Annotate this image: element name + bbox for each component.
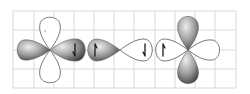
- middle-bond: [88, 39, 153, 61]
- left-atom: [17, 17, 85, 83]
- orbital-diagram-svg: [0, 0, 250, 94]
- right-atom: [156, 17, 220, 84]
- lobe-right-outline: [120, 39, 152, 61]
- orbital-diagram: [0, 0, 250, 94]
- lobe-left-filled-2: [88, 39, 120, 61]
- dot-marker: [44, 30, 46, 32]
